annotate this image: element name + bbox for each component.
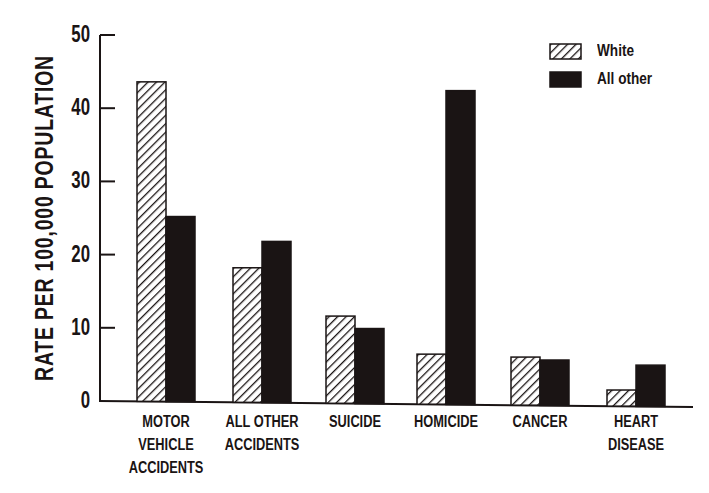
x-category-label: ALL OTHER ACCIDENTS bbox=[214, 410, 310, 456]
x-category-label: HOMICIDE bbox=[398, 410, 494, 433]
bars bbox=[137, 82, 665, 407]
bar-white bbox=[326, 316, 355, 403]
bar-all-other bbox=[446, 91, 475, 405]
x-category-label: HEART DISEASE bbox=[588, 410, 684, 456]
bar-all-other bbox=[540, 360, 569, 405]
bar-white bbox=[607, 390, 636, 406]
x-category-label: SUICIDE bbox=[307, 410, 403, 433]
legend-swatch-white bbox=[550, 44, 581, 59]
bar-all-other bbox=[166, 217, 195, 402]
legend-label: All other bbox=[597, 70, 652, 88]
y-tick-label: 0 bbox=[55, 386, 90, 414]
bar-all-other bbox=[262, 241, 291, 402]
y-tick-label: 30 bbox=[55, 166, 90, 194]
y-tick-label: 40 bbox=[55, 93, 90, 121]
legend-label: White bbox=[597, 42, 634, 60]
x-category-label: CANCER bbox=[492, 410, 588, 433]
bar-white bbox=[417, 354, 446, 404]
bar-white bbox=[511, 357, 540, 405]
bar-white bbox=[233, 268, 262, 403]
x-category-label: MOTOR VEHICLE ACCIDENTS bbox=[118, 410, 214, 479]
y-tick-label: 20 bbox=[55, 240, 90, 268]
bar-all-other bbox=[355, 329, 384, 404]
y-tick-label: 50 bbox=[55, 20, 90, 48]
legend bbox=[550, 44, 581, 87]
bar-chart: RATE PER 100,000 POPULATION 01020304050M… bbox=[0, 0, 709, 493]
bar-all-other bbox=[636, 365, 665, 406]
y-tick-label: 10 bbox=[55, 313, 90, 341]
bar-white bbox=[137, 82, 166, 402]
legend-swatch-all-other bbox=[550, 72, 581, 87]
